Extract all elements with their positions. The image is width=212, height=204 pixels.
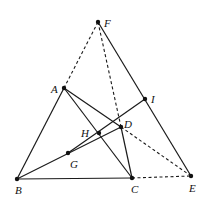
segment-FD bbox=[98, 22, 121, 127]
segment-CE bbox=[132, 176, 191, 178]
segment-BC bbox=[17, 178, 132, 179]
label-C: C bbox=[131, 183, 139, 195]
label-I: I bbox=[150, 93, 156, 105]
point-C bbox=[130, 176, 134, 180]
label-A: A bbox=[50, 83, 58, 95]
point-E bbox=[189, 174, 193, 178]
label-H: H bbox=[80, 127, 90, 139]
label-D: D bbox=[123, 118, 132, 130]
point-F bbox=[96, 20, 100, 24]
segment-FA bbox=[64, 22, 98, 88]
segment-AB bbox=[17, 88, 64, 179]
point-H bbox=[97, 131, 101, 135]
label-B: B bbox=[15, 184, 22, 196]
segment-DE bbox=[121, 127, 191, 176]
point-A bbox=[62, 86, 66, 90]
label-G: G bbox=[70, 158, 78, 170]
label-E: E bbox=[188, 182, 196, 194]
point-G bbox=[66, 151, 70, 155]
geometry-diagram: F A I D H G B C E bbox=[0, 0, 212, 204]
point-D bbox=[119, 125, 123, 129]
point-B bbox=[15, 177, 19, 181]
point-I bbox=[143, 97, 147, 101]
label-F: F bbox=[103, 17, 111, 29]
